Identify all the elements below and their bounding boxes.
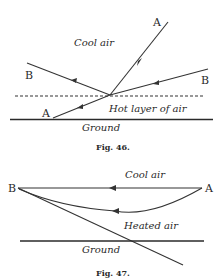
ray-a-incident [110, 22, 168, 95]
label-hot-layer: Hot layer of air [108, 103, 188, 114]
label-cool-air: Cool air [74, 37, 115, 48]
label-b: B [8, 182, 16, 195]
caption-fig-47: Fig. 47. [96, 268, 130, 278]
arrow-icon [71, 78, 77, 83]
label-a: A [204, 182, 214, 195]
figure-46: A B B A Cool air Hot layer of air Ground… [10, 16, 213, 152]
arrow-icon [109, 185, 116, 191]
ray-heated-air-curve [19, 188, 202, 212]
label-a-top: A [152, 16, 162, 29]
refraction-diagrams: A B B A Cool air Hot layer of air Ground… [0, 0, 224, 280]
label-a-bottom: A [41, 107, 51, 120]
label-ground: Ground [82, 244, 120, 255]
label-heated-air: Heated air [123, 220, 179, 231]
label-ground: Ground [82, 122, 120, 133]
arrow-icon [112, 208, 119, 214]
ray-b-left [27, 63, 110, 95]
label-cool-air: Cool air [125, 169, 166, 180]
arrow-icon [153, 80, 159, 85]
label-b-left: B [25, 69, 33, 82]
label-b-right: B [201, 74, 209, 87]
caption-fig-46: Fig. 46. [96, 142, 130, 152]
figure-47: B A Cool air Heated air Ground Fig. 47. [8, 169, 214, 278]
